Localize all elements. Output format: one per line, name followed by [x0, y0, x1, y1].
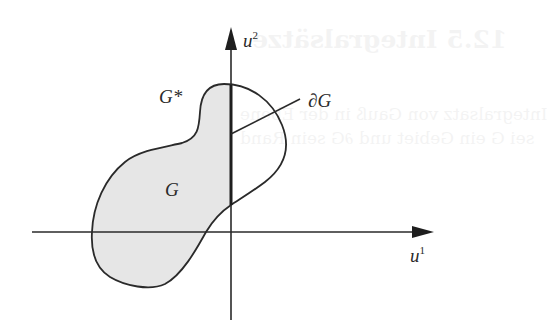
- region-g-star-label: G*: [159, 86, 183, 107]
- region-g-label: G: [165, 179, 179, 200]
- u2-axis-arrowhead-icon: [225, 27, 237, 50]
- region-g-star-fill: [92, 84, 286, 287]
- boundary-label: ∂G: [308, 90, 331, 111]
- u2-axis-label: u2: [243, 29, 258, 51]
- boundary-leader-line: [231, 99, 300, 134]
- u1-axis-arrowhead-icon: [412, 226, 434, 238]
- u1-axis-label: u1: [410, 244, 425, 266]
